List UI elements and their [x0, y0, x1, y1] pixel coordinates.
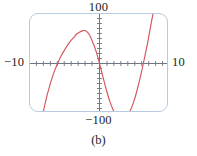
graph-plot-area: [30, 14, 168, 112]
figure-panel: 100 −100 −10 10 (b): [0, 0, 197, 156]
graph-viewport-frame: [29, 13, 168, 112]
figure-caption: (b): [0, 134, 197, 147]
x-axis-min-label: −10: [4, 56, 24, 69]
x-axis-max-label: 10: [172, 56, 185, 69]
y-axis-min-label: −100: [0, 114, 197, 127]
y-axis-max-label: 100: [0, 1, 197, 14]
